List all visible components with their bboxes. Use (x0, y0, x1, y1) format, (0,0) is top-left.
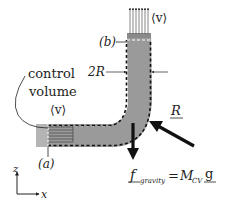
control-volume-label-2: volume (28, 84, 77, 99)
gravity-subscript: gravity (140, 177, 166, 185)
section-a-label: (a) (38, 157, 55, 171)
section-b-label: (b) (99, 35, 116, 49)
gravity-arrow-head (127, 148, 139, 160)
diameter-label: 2R (87, 65, 105, 79)
outlet-velocity-arrows (130, 8, 148, 34)
inlet-velocity-label: ⟨v⟩ (50, 103, 66, 117)
mass-subscript: CV (192, 177, 203, 185)
g-label: g (205, 166, 213, 181)
reaction-force-label: R (170, 103, 181, 118)
pipe-diagram: control volume ⟨v⟩ ⟨v⟩ (b) (a) 2R R f gr… (0, 0, 234, 208)
axis-z-label: z (12, 163, 19, 174)
gravity-force-label: f (129, 167, 138, 183)
reaction-force-arrow (158, 126, 194, 146)
equals-sign: = (168, 168, 179, 183)
control-volume-label-1: control (28, 66, 75, 81)
axis-x-label: x (41, 188, 48, 201)
outlet-velocity-label: ⟨v⟩ (151, 11, 167, 25)
